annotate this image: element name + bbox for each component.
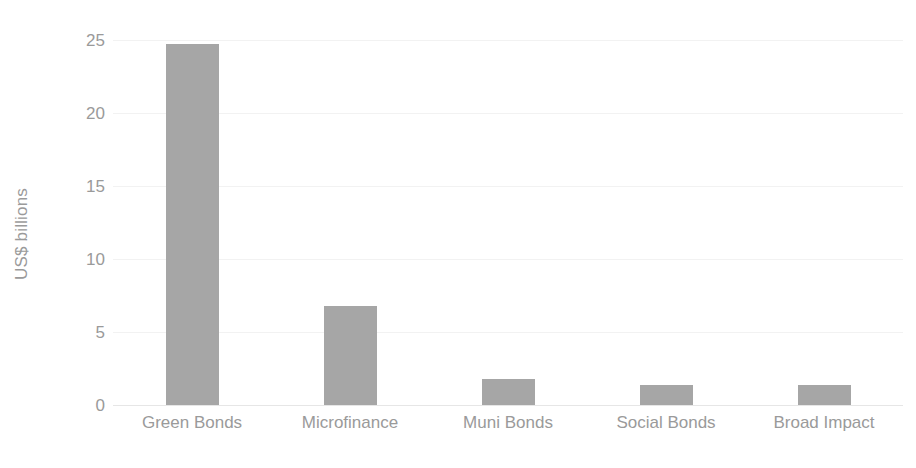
bar-chart: US$ billions 0510152025 Green BondsMicro… — [0, 0, 916, 468]
y-axis-title: US$ billions — [0, 0, 44, 468]
x-axis-tick-labels: Green BondsMicrofinanceMuni BondsSocial … — [113, 412, 903, 452]
y-axis-tick-labels: 0510152025 — [45, 0, 105, 468]
x-axis-tick-label: Social Bonds — [616, 412, 715, 434]
y-axis-tick-label: 25 — [45, 32, 105, 49]
bar — [798, 385, 851, 405]
bar — [482, 379, 535, 405]
bar — [324, 306, 377, 405]
bar — [640, 385, 693, 405]
gridline — [113, 405, 903, 406]
bar — [166, 44, 219, 405]
y-axis-tick-label: 20 — [45, 105, 105, 122]
y-axis-tick-label: 0 — [45, 397, 105, 414]
y-axis-tick-label: 15 — [45, 178, 105, 195]
x-axis-tick-label: Microfinance — [302, 412, 398, 434]
x-axis-tick-label: Broad Impact — [773, 412, 874, 434]
y-axis-tick-label: 10 — [45, 251, 105, 268]
bars-layer — [113, 40, 903, 405]
plot-area — [113, 40, 903, 405]
x-axis-tick-label: Green Bonds — [142, 412, 242, 434]
y-axis-tick-label: 5 — [45, 324, 105, 341]
x-axis-tick-label: Muni Bonds — [463, 412, 553, 434]
